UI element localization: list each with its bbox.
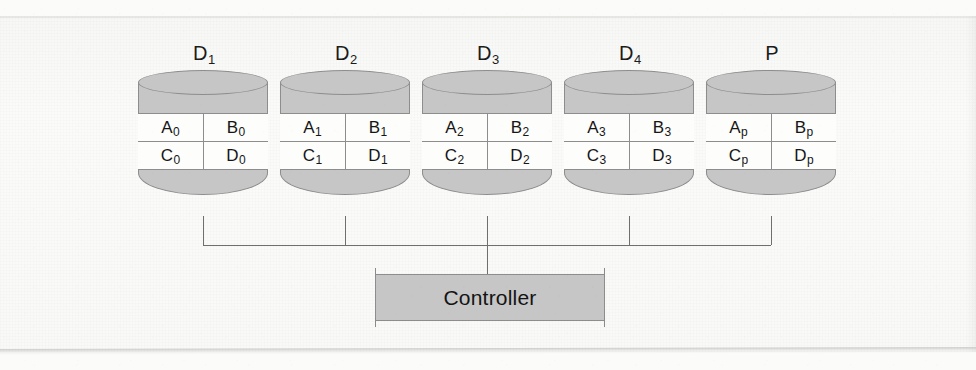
figure-canvas: D1A0B0C0D0D2A1B1C1D1D3A2B2C2D2D4A3B3C3D3… [0, 0, 976, 370]
data-block-base: D [510, 146, 522, 166]
controller-box[interactable]: Controller [375, 274, 605, 321]
controller-corner-tick-1 [375, 268, 376, 277]
data-block-cell[interactable]: C0 [138, 142, 204, 169]
disk-drop-line-3 [487, 216, 488, 245]
data-block-base: B [227, 118, 238, 138]
data-block-base: A [161, 118, 172, 138]
disk-label-base: D [335, 42, 350, 64]
data-block-subscript: 2 [457, 125, 464, 139]
data-block-row: ApBp [706, 114, 836, 142]
disk-label-subscript: 2 [350, 52, 357, 67]
data-block-row: C3D3 [564, 142, 694, 169]
data-block-base: A [587, 118, 598, 138]
data-block-cell[interactable]: D0 [204, 142, 269, 169]
data-block-base: D [226, 146, 238, 166]
disk-d4-data-band: A3B3C3D3 [564, 113, 694, 170]
disk-d3-cylinder: A2B2C2D2 [422, 70, 554, 208]
data-block-row: C0D0 [138, 142, 268, 169]
data-block-cell[interactable]: D1 [346, 142, 411, 169]
disk-label-base: D [193, 42, 208, 64]
data-block-base: D [794, 146, 806, 166]
data-block-base: B [369, 118, 380, 138]
data-block-row: CpDp [706, 142, 836, 169]
disk-d3-data-band: A2B2C2D2 [422, 113, 552, 170]
controller-corner-tick-3 [604, 268, 605, 277]
disk-label-base: D [477, 42, 492, 64]
data-block-cell[interactable]: A3 [564, 114, 630, 141]
data-block-base: A [303, 118, 314, 138]
data-block-base: C [161, 146, 173, 166]
data-block-subscript: 2 [458, 153, 465, 167]
data-block-cell[interactable]: Dp [772, 142, 837, 169]
cylinder-top-ellipse [422, 70, 552, 95]
disk-label-subscript: 4 [634, 52, 641, 67]
data-block-subscript: 1 [381, 153, 388, 167]
data-block-cell[interactable]: A1 [280, 114, 346, 141]
data-block-subscript: 3 [665, 125, 672, 139]
controller-corner-tick-2 [375, 318, 376, 327]
data-block-subscript: 0 [239, 153, 246, 167]
data-block-subscript: 3 [600, 153, 607, 167]
disk-drop-line-4 [629, 216, 630, 245]
disk-d1-data-band: A0B0C0D0 [138, 113, 268, 170]
data-block-cell[interactable]: B1 [346, 114, 411, 141]
data-block-subscript: 1 [315, 125, 322, 139]
disk-d3-label: D3 [422, 42, 554, 65]
data-block-subscript: 0 [173, 125, 180, 139]
disk-d2-cylinder: A1B1C1D1 [280, 70, 412, 208]
cylinder-top-ellipse [564, 70, 694, 95]
diagram-stage: D1A0B0C0D0D2A1B1C1D1D3A2B2C2D2D4A3B3C3D3… [0, 0, 976, 370]
disk-drop-line-2 [345, 216, 346, 245]
disk-d2-data-band: A1B1C1D1 [280, 113, 410, 170]
data-block-cell[interactable]: B2 [488, 114, 553, 141]
data-block-base: D [368, 146, 380, 166]
data-block-base: C [445, 146, 457, 166]
data-block-row: A2B2 [422, 114, 552, 142]
data-block-subscript: 2 [523, 153, 530, 167]
controller-stem-line [487, 245, 488, 274]
data-block-cell[interactable]: B0 [204, 114, 269, 141]
data-block-row: A0B0 [138, 114, 268, 142]
cylinder-top-ellipse [138, 70, 268, 95]
data-block-cell[interactable]: A0 [138, 114, 204, 141]
disk-d2-label: D2 [280, 42, 412, 65]
data-block-base: C [303, 146, 315, 166]
cylinder-top-ellipse [280, 70, 410, 95]
data-block-cell[interactable]: Cp [706, 142, 772, 169]
data-block-base: A [445, 118, 456, 138]
data-block-subscript: 1 [316, 153, 323, 167]
data-block-cell[interactable]: A2 [422, 114, 488, 141]
disk-label-base: D [619, 42, 634, 64]
data-block-base: B [653, 118, 664, 138]
data-block-subscript: p [742, 153, 749, 167]
data-block-cell[interactable]: C2 [422, 142, 488, 169]
data-block-subscript: p [807, 125, 814, 139]
data-block-subscript: 1 [381, 125, 388, 139]
disk-p-data-band: ApBpCpDp [706, 113, 836, 170]
data-block-cell[interactable]: D2 [488, 142, 553, 169]
data-block-base: C [729, 146, 741, 166]
disk-d1-label: D1 [138, 42, 270, 65]
data-block-base: C [587, 146, 599, 166]
data-block-subscript: p [741, 125, 748, 139]
cylinder-top-ellipse [706, 70, 836, 95]
disk-label-subscript: 1 [208, 52, 215, 67]
data-block-cell[interactable]: B3 [630, 114, 695, 141]
data-block-cell[interactable]: C1 [280, 142, 346, 169]
data-block-subscript: 2 [523, 125, 530, 139]
data-block-base: B [795, 118, 806, 138]
disk-drop-line-1 [203, 216, 204, 245]
controller-label: Controller [443, 286, 536, 310]
data-block-cell[interactable]: Ap [706, 114, 772, 141]
data-block-cell[interactable]: C3 [564, 142, 630, 169]
data-block-cell[interactable]: D3 [630, 142, 695, 169]
data-block-row: C2D2 [422, 142, 552, 169]
data-block-cell[interactable]: Bp [772, 114, 837, 141]
disk-p-cylinder: ApBpCpDp [706, 70, 838, 208]
disk-drop-line-5 [771, 216, 772, 245]
disk-label-base: P [765, 42, 779, 64]
data-block-subscript: 0 [239, 125, 246, 139]
disk-d4-label: D4 [564, 42, 696, 65]
controller-corner-tick-4 [604, 318, 605, 327]
data-block-base: B [511, 118, 522, 138]
